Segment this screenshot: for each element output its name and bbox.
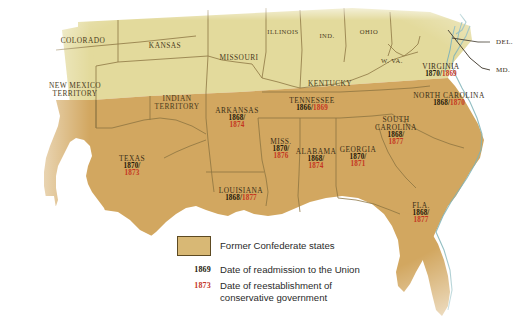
legend-row-confederate: Former Confederate states bbox=[176, 236, 486, 256]
legend-key-swatch bbox=[176, 236, 220, 256]
legend-row-conservative: 1873 Date of reestablishment of conserva… bbox=[176, 279, 486, 303]
legend-label-readmission: Date of readmission to the Union bbox=[220, 263, 360, 275]
legend-row-readmission: 1869 Date of readmission to the Union bbox=[176, 263, 486, 275]
confederate-color-swatch bbox=[177, 236, 211, 256]
legend-key-readmission: 1869 bbox=[176, 263, 220, 274]
legend-label-conservative-line1: Date of reestablishment of bbox=[220, 280, 332, 291]
legend-date-conservative: 1873 bbox=[194, 279, 211, 290]
legend-label-conservative: Date of reestablishment of conservative … bbox=[220, 279, 332, 303]
legend-label-conservative-line2: conservative government bbox=[220, 292, 332, 303]
map-legend: Former Confederate states 1869 Date of r… bbox=[176, 236, 486, 308]
legend-key-conservative: 1873 bbox=[176, 279, 220, 290]
legend-label-confederate: Former Confederate states bbox=[220, 236, 335, 251]
reconstruction-map: COLORADO KANSAS MISSOURI ILLINOIS IND. O… bbox=[0, 0, 521, 319]
legend-date-readmission: 1869 bbox=[194, 263, 211, 274]
